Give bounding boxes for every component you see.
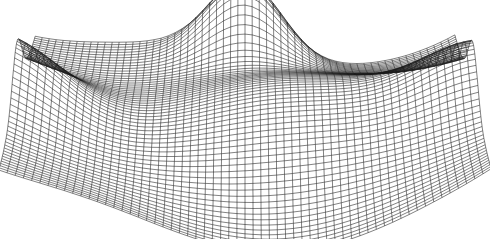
mesh-line — [147, 38, 162, 220]
mesh-line — [280, 12, 286, 239]
mesh-line — [138, 40, 154, 218]
mesh-line — [420, 51, 450, 193]
mesh-line — [237, 0, 238, 239]
mesh-line — [385, 61, 409, 215]
mesh-line — [220, 0, 224, 239]
mesh-line — [266, 0, 270, 239]
mesh-lines-v — [0, 0, 490, 239]
mesh-line — [204, 3, 210, 239]
mesh-line — [252, 0, 253, 239]
wireframe-surface-plot — [0, 0, 490, 239]
mesh-line — [308, 46, 319, 239]
mesh-line — [259, 0, 261, 239]
